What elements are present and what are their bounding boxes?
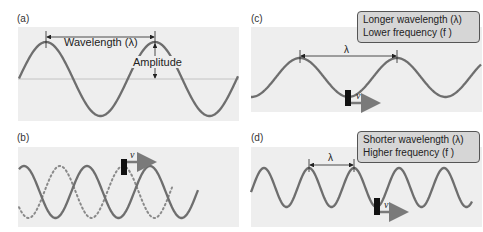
info-line-wavelength: Longer wavelength (λ) [363, 13, 474, 26]
marker-block [345, 90, 351, 106]
info-line-wavelength: Shorter wavelength (λ) [363, 133, 474, 146]
wavelength-symbol-d: λ [328, 152, 333, 163]
wavelength-symbol-c: λ [344, 44, 349, 55]
wave-c [251, 58, 481, 97]
velocity-label-d: v [384, 199, 388, 210]
info-box-shorter-wavelength: Shorter wavelength (λ) Higher frequency … [357, 131, 480, 163]
info-line-frequency: Lower frequency (f ) [363, 26, 474, 39]
marker-block [374, 198, 380, 215]
marker-block [121, 159, 127, 175]
amplitude-label: Amplitude [132, 56, 183, 68]
wavelength-label: Wavelength (λ) [64, 36, 138, 48]
info-line-frequency: Higher frequency (f ) [363, 146, 474, 159]
panel-b [19, 159, 198, 218]
velocity-label-c: v [356, 90, 360, 101]
panel-d [251, 159, 472, 215]
wave-d [251, 168, 472, 207]
info-box-longer-wavelength: Longer wavelength (λ) Lower frequency (f… [357, 11, 480, 43]
velocity-label-b: v [130, 149, 134, 160]
panel-c [251, 50, 481, 106]
